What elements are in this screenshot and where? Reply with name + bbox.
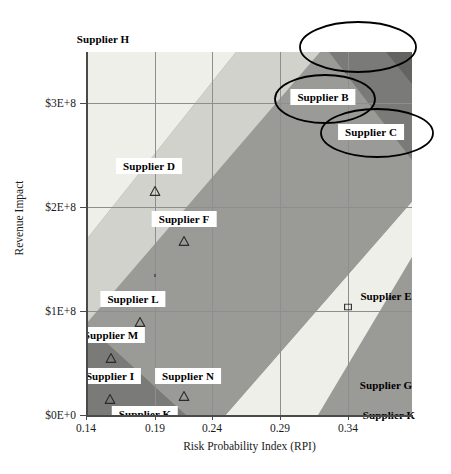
y-tick-0 (80, 415, 86, 416)
y-ticklabel-2e8: $2E+8 (45, 201, 76, 213)
datalabel-supplier-f: Supplier F (152, 211, 217, 227)
marker-supplier-i[interactable] (105, 394, 116, 404)
datalabel-supplier-e: Supplier E (353, 288, 418, 304)
y-ticklabel-1e8: $1E+8 (45, 305, 76, 317)
x-axis-line (86, 415, 413, 417)
x-tick-014 (86, 415, 87, 420)
y-axis-line (86, 52, 88, 416)
y-tick-3e8 (80, 103, 86, 104)
gridline-horizontal-3e8 (86, 103, 412, 104)
marker-supplier-e[interactable] (344, 304, 352, 311)
y-axis-title: Revenue Impact (13, 158, 25, 278)
datalabel-supplier-b: Supplier B (290, 89, 355, 105)
datalabel-supplier-k-bottom: Supplier K (112, 406, 178, 415)
gridline-vertical-024 (212, 52, 213, 415)
datalabel-supplier-d: Supplier D (116, 158, 182, 174)
x-ticklabel-029: 0.29 (270, 422, 290, 434)
x-tick-029 (280, 415, 281, 420)
x-ticklabel-034: 0.34 (338, 422, 358, 434)
datalabel-supplier-g: Supplier G (353, 377, 419, 393)
risk-band-background (86, 52, 412, 415)
y-tick-1e8 (80, 311, 86, 312)
datalabel-supplier-m: Supplier M (86, 327, 145, 343)
x-tick-024 (212, 415, 213, 420)
gridline-vertical-034 (348, 52, 349, 415)
marker-supplier-n[interactable] (179, 391, 190, 401)
gridline-horizontal-1e8 (86, 311, 412, 312)
datalabel-supplier-n: Supplier N (155, 368, 221, 384)
x-tick-034 (348, 415, 349, 420)
datalabel-supplier-l: Supplier L (100, 291, 165, 307)
datalabel-supplier-c: Supplier C (338, 124, 404, 140)
y-tick-2e8 (80, 207, 86, 208)
plot-area: Supplier A Supplier B Supplier C Supplie… (86, 52, 412, 415)
marker-supplier-d[interactable] (150, 186, 161, 196)
y-ticklabel-3e8: $3E+8 (45, 97, 76, 109)
x-ticklabel-024: 0.24 (202, 422, 222, 434)
x-ticklabel-014: 0.14 (76, 422, 96, 434)
marker-supplier-f[interactable] (179, 236, 190, 246)
x-ticklabel-019: 0.19 (145, 422, 165, 434)
datalabel-supplier-i: Supplier I (86, 368, 141, 384)
risk-impact-scatter-chart: Supplier A Supplier B Supplier C Supplie… (0, 0, 451, 474)
datalabel-supplier-h: Supplier H (70, 31, 136, 47)
x-tick-019 (155, 415, 156, 420)
x-axis-title: Risk Probability Index (RPI) (86, 440, 413, 452)
plot-artifact-dot (154, 274, 156, 277)
gridline-vertical-029 (280, 52, 281, 415)
marker-supplier-l[interactable] (135, 317, 146, 327)
y-ticklabel-0e0: $0E+0 (45, 409, 76, 421)
y-tick-label-group: $0E+0 $1E+8 $2E+8 $3E+8 (0, 0, 76, 474)
gridline-horizontal-2e8 (86, 207, 412, 208)
gridline-vertical-019 (155, 52, 156, 415)
marker-supplier-m[interactable] (106, 353, 117, 363)
